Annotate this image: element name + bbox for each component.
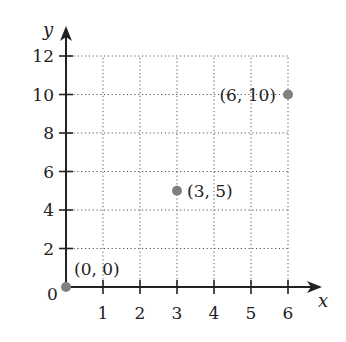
x-tick-label: 2 <box>135 303 146 323</box>
data-point <box>61 282 71 292</box>
data-point <box>172 186 182 196</box>
y-tick-label: 10 <box>32 85 54 105</box>
x-tick-label: 3 <box>172 303 183 323</box>
data-point-label: (0, 0) <box>74 259 120 279</box>
y-tick-label: 4 <box>43 200 54 220</box>
data-point-label: (6, 10) <box>219 85 276 105</box>
origin-label: 0 <box>47 284 58 304</box>
data-point-label: (3, 5) <box>187 181 233 201</box>
y-tick-label: 12 <box>32 46 54 66</box>
x-tick-label: 5 <box>246 303 257 323</box>
x-tick-label: 6 <box>283 303 294 323</box>
x-axis-label: x <box>318 290 328 311</box>
y-tick-label: 2 <box>43 239 54 259</box>
y-tick-label: 6 <box>43 162 54 182</box>
y-axis-label: y <box>42 19 54 40</box>
y-tick-label: 8 <box>43 123 54 143</box>
coordinate-plane-chart: 12345624681012 x y 0 (0, 0)(3, 5)(6, 10) <box>0 0 346 342</box>
x-tick-label: 4 <box>209 303 220 323</box>
x-tick-label: 1 <box>98 303 109 323</box>
axes <box>60 26 322 293</box>
data-point <box>283 90 293 100</box>
